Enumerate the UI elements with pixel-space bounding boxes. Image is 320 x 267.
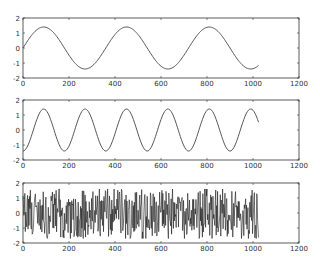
x-tick-label: 200 — [62, 80, 75, 88]
subplot-2: 020040060080010001200210-1-2 — [13, 97, 308, 171]
x-tick-label: 800 — [200, 245, 213, 253]
x-tick-label: 400 — [108, 245, 121, 253]
y-tick-label: -1 — [13, 60, 20, 68]
y-tick-label: 2 — [16, 15, 20, 23]
x-tick-label: 400 — [108, 80, 121, 88]
x-tick-label: 0 — [21, 162, 25, 170]
x-tick-label: 1200 — [290, 162, 308, 170]
series-line — [23, 27, 259, 69]
subplot-1: 020040060080010001200210-1-2 — [13, 15, 308, 89]
y-tick-label: -1 — [13, 142, 20, 150]
x-tick-label: 800 — [200, 80, 213, 88]
series-noise — [23, 189, 259, 239]
y-tick-label: 0 — [16, 210, 20, 218]
y-tick-label: 0 — [16, 45, 20, 53]
x-tick-label: 800 — [200, 162, 213, 170]
x-tick-label: 200 — [62, 162, 75, 170]
y-tick-label: 1 — [16, 112, 20, 120]
y-tick-label: -2 — [13, 157, 20, 165]
y-tick-label: 0 — [16, 127, 20, 135]
y-tick-label: -2 — [13, 75, 20, 83]
x-tick-label: 0 — [21, 245, 25, 253]
y-tick-label: 1 — [16, 30, 20, 38]
x-tick-label: 1000 — [244, 162, 262, 170]
x-tick-label: 600 — [154, 162, 167, 170]
x-tick-label: 600 — [154, 245, 167, 253]
figure: 020040060080010001200210-1-2020040060080… — [0, 0, 320, 267]
y-tick-label: 2 — [16, 180, 20, 188]
y-tick-label: 1 — [16, 195, 20, 203]
series-line — [23, 109, 259, 151]
x-tick-label: 200 — [62, 245, 75, 253]
x-tick-label: 400 — [108, 162, 121, 170]
subplot-3: 020040060080010001200210-1-2 — [13, 180, 308, 254]
x-tick-label: 1200 — [290, 80, 308, 88]
y-tick-label: 2 — [16, 97, 20, 105]
x-tick-label: 600 — [154, 80, 167, 88]
x-tick-label: 0 — [21, 80, 25, 88]
y-tick-label: -2 — [13, 240, 20, 248]
x-tick-label: 1000 — [244, 245, 262, 253]
y-tick-label: -1 — [13, 225, 20, 233]
x-tick-label: 1200 — [290, 245, 308, 253]
x-tick-label: 1000 — [244, 80, 262, 88]
chart-canvas: 020040060080010001200210-1-2020040060080… — [0, 0, 320, 267]
